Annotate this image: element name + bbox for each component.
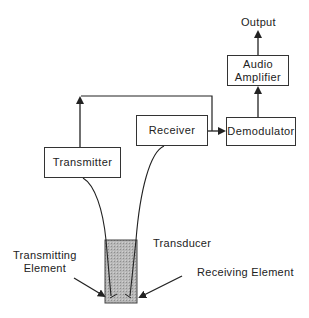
receiver-block: Receiver bbox=[136, 115, 208, 146]
transmitting-element-label-line1: Transmitting bbox=[13, 249, 77, 262]
receiver-label: Receiver bbox=[149, 124, 196, 137]
transmitting-element-label-line2: Element bbox=[13, 262, 77, 275]
transmitter-block: Transmitter bbox=[44, 147, 121, 178]
receiving-element-label: Receiving Element bbox=[197, 266, 294, 279]
demodulator-block: Demodulator bbox=[226, 117, 296, 146]
transmitter-label: Transmitter bbox=[53, 156, 113, 169]
transducer-label: Transducer bbox=[153, 237, 211, 250]
demodulator-label: Demodulator bbox=[227, 125, 294, 138]
audio-amplifier-block: Audio Amplifier bbox=[227, 55, 289, 86]
transmitting-element-pointer bbox=[74, 278, 104, 296]
receiving-element-pointer bbox=[140, 276, 182, 297]
transmitting-element-label: Transmitting Element bbox=[13, 249, 77, 275]
audio-amplifier-label-line2: Amplifier bbox=[235, 71, 281, 84]
output-label: Output bbox=[241, 16, 276, 29]
audio-amplifier-label-line1: Audio bbox=[243, 58, 273, 71]
